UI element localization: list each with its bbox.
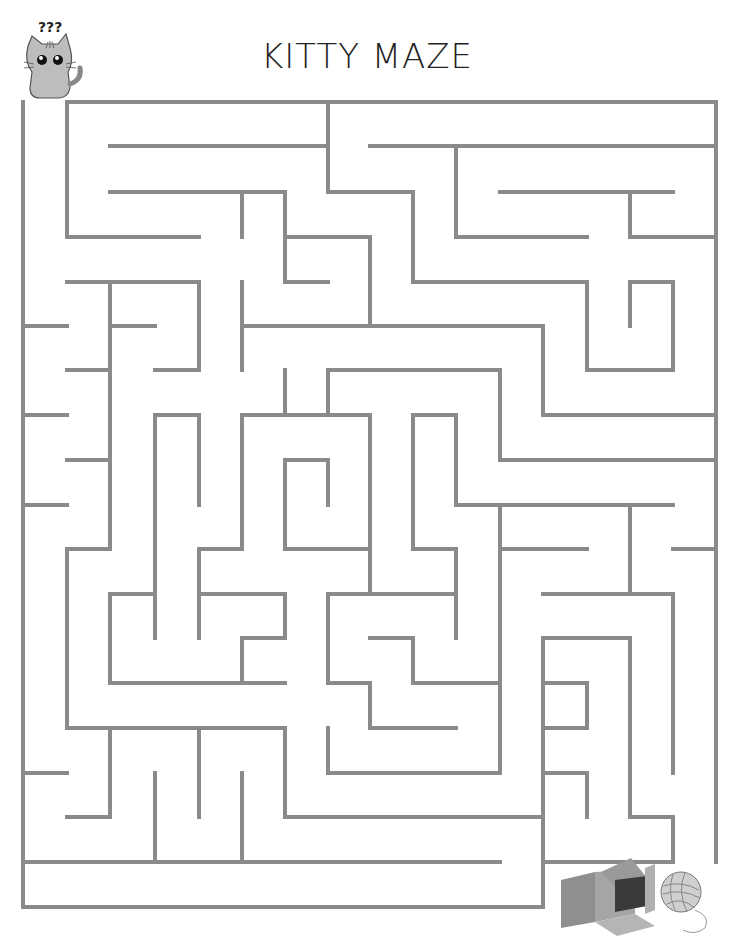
question-marks: ??? — [38, 19, 62, 35]
yarn-ball-icon — [661, 872, 707, 933]
maze — [0, 0, 734, 940]
goal-area — [555, 850, 725, 940]
cat-icon: ??? — [18, 18, 88, 104]
box-icon — [561, 858, 655, 936]
